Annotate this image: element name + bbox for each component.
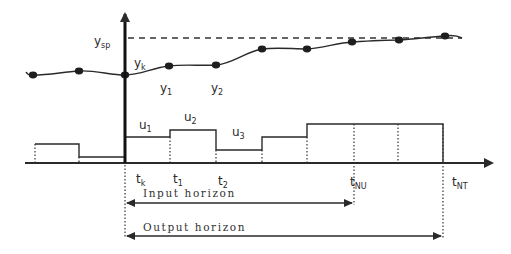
time-k-label: tk: [136, 172, 146, 188]
output-point: [303, 46, 311, 53]
pred-output-2-label: y2: [211, 81, 223, 97]
input-2-label: u2: [184, 110, 197, 126]
mpc-diagram: ysp yk y1 y2 u1 u2 u3 tk t1 t2 tNU tNT I…: [0, 0, 511, 254]
output-point: [395, 37, 403, 44]
output-point: [348, 39, 356, 46]
input-1-label: u1: [139, 118, 152, 134]
output-point: [75, 68, 83, 75]
pred-output-1-label: y1: [160, 81, 172, 97]
input-horizon-label: Input horizon: [143, 187, 236, 199]
output-point: [165, 63, 173, 70]
output-point: [212, 62, 220, 69]
output-point: [441, 33, 449, 40]
setpoint-label: ysp: [94, 34, 110, 50]
output-horizon-label: Output horizon: [143, 221, 246, 233]
input-3-label: u3: [232, 125, 245, 141]
time-NT-label: tNT: [452, 175, 468, 191]
output-point: [258, 46, 266, 53]
current-output-label: yk: [134, 56, 146, 72]
time-1-label: t1: [173, 172, 183, 188]
output-point: [29, 72, 37, 79]
time-NU-label: tNU: [350, 175, 367, 191]
